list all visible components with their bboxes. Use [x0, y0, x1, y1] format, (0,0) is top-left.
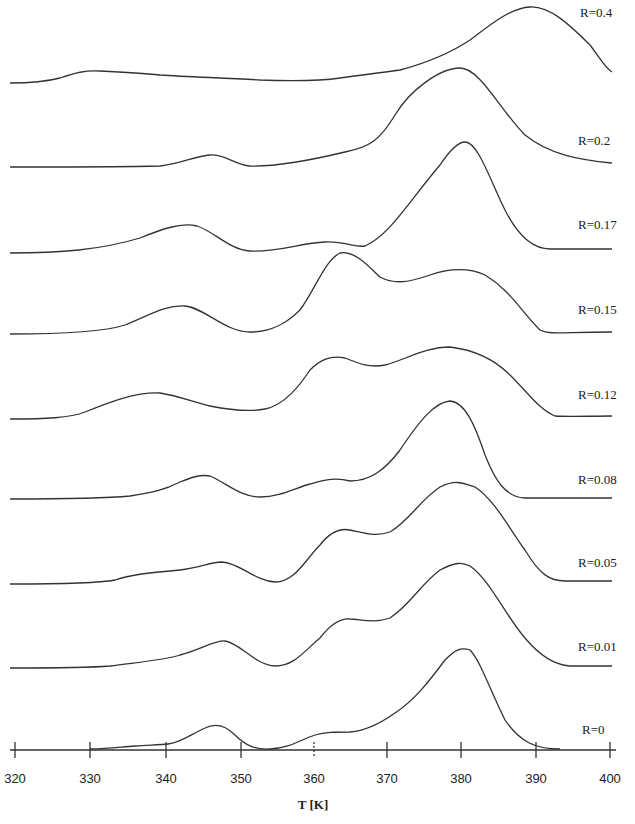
tick-label-380: 380 [450, 771, 472, 786]
label-r015: R=0.15 [578, 302, 617, 318]
chart-plot [0, 0, 635, 824]
curve-r0 [90, 649, 560, 749]
label-r0: R=0 [582, 722, 605, 738]
tick-label-340: 340 [155, 771, 177, 786]
tick-label-400: 400 [599, 771, 621, 786]
curve-r012 [10, 347, 612, 419]
tick-label-390: 390 [525, 771, 547, 786]
curve-r008 [10, 401, 612, 499]
curve-r001 [10, 563, 612, 668]
tick-label-330: 330 [79, 771, 101, 786]
label-r012: R=0.12 [578, 387, 617, 403]
curve-r04 [10, 7, 612, 83]
label-r04: R=0.4 [580, 5, 612, 21]
tick-label-370: 370 [376, 771, 398, 786]
x-axis-label: T [K] [298, 797, 328, 813]
tick-label-360: 360 [303, 771, 325, 786]
curve-r02 [10, 68, 612, 167]
tick-label-350: 350 [230, 771, 252, 786]
curve-r015 [10, 253, 612, 334]
label-r008: R=0.08 [578, 472, 617, 488]
curve-r017 [10, 142, 612, 253]
tick-label-320: 320 [4, 771, 26, 786]
label-r005: R=0.05 [578, 555, 617, 571]
label-r02: R=0.2 [578, 133, 610, 149]
label-r017: R=0.17 [578, 217, 617, 233]
label-r001: R=0.01 [578, 639, 617, 655]
